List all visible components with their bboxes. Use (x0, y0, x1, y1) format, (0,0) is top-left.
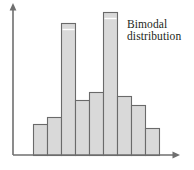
histogram-bar (118, 97, 132, 156)
histogram-bar (34, 125, 48, 156)
histogram-figure: Bimodal distribution (0, 0, 194, 170)
histogram-bar (104, 13, 118, 156)
histogram-bar (76, 101, 90, 156)
histogram-bar (132, 106, 146, 156)
y-axis-arrowhead (10, 3, 17, 11)
histogram-bar (62, 24, 76, 156)
annotation-label-line2: distribution (127, 30, 181, 43)
histogram-bar (48, 118, 62, 156)
x-axis-arrowhead (173, 152, 181, 159)
annotation-label-line1: Bimodal (127, 18, 167, 31)
histogram-bar (146, 129, 160, 156)
histogram-bar (90, 93, 104, 156)
